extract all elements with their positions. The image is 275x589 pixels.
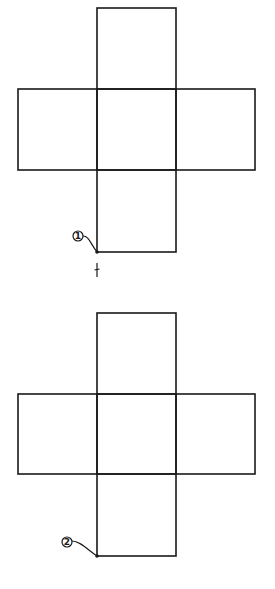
net-1-vertex-dot bbox=[95, 250, 99, 254]
net-1-leader-line bbox=[83, 236, 97, 252]
net-1-face-left bbox=[18, 89, 97, 170]
net-2-face-top bbox=[97, 313, 176, 394]
net-2-label-marker: 2 bbox=[62, 537, 72, 547]
net-2-vertex-dot bbox=[95, 554, 99, 558]
net-1-label: 1 bbox=[75, 231, 81, 241]
net-1-face-bottom bbox=[97, 170, 176, 252]
net-2-leader-line bbox=[72, 541, 97, 556]
net-1-tick-mark bbox=[95, 263, 100, 277]
net-2-face-left bbox=[18, 394, 97, 474]
net-1-face-top bbox=[97, 8, 176, 89]
net-2-face-right bbox=[176, 394, 255, 474]
net-2-face-center bbox=[97, 394, 176, 474]
net-1-label-marker: 1 bbox=[73, 231, 83, 241]
cube-net-2: 2 bbox=[18, 313, 255, 558]
net-2-label: 2 bbox=[64, 537, 70, 547]
net-1-face-center bbox=[97, 89, 176, 170]
cube-net-1: 1 bbox=[18, 8, 255, 277]
net-2-face-bottom bbox=[97, 474, 176, 556]
diagram-canvas: 1 2 bbox=[0, 0, 275, 589]
net-1-face-right bbox=[176, 89, 255, 170]
